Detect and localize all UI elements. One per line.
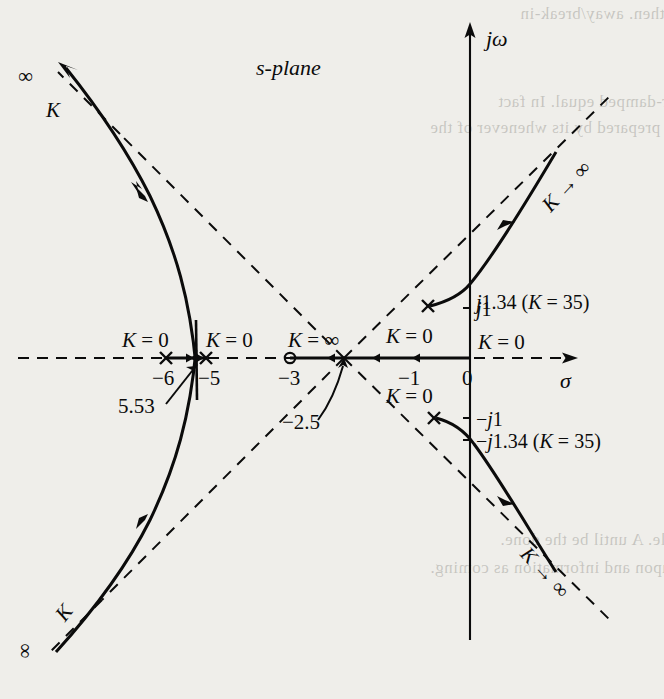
annotation-kinf-zero-minus3: K = ∞ — [288, 330, 339, 351]
plane-label: s-plane — [256, 57, 321, 79]
tick-label-j1: j1 — [476, 299, 492, 319]
real-axis-label: σ — [560, 370, 571, 392]
tick-label-minus-6: −6 — [152, 368, 174, 389]
tick-label-minus-j1-34: −j1.34 (K = 35) — [476, 431, 601, 451]
tick-label-zero: 0 — [462, 368, 473, 389]
infinity-label-lower-left: ∞ — [14, 644, 35, 659]
tick-label-minus-5: −5 — [198, 368, 220, 389]
annotation-k0-pole-minus5: K = 0 — [206, 330, 253, 351]
asymptote-centroid-label: −2.5 — [282, 412, 320, 433]
annotation-k0-pole-lower: K = 0 — [386, 386, 433, 407]
annotation-k0-pole-minus6: K = 0 — [122, 330, 169, 351]
tick-label-minus-3: −3 — [278, 368, 300, 389]
locus-branch-upper-left — [58, 62, 196, 366]
annotation-k0-pole-upper: K = 0 — [386, 326, 433, 347]
infinity-label-upper-left: ∞ — [18, 66, 33, 87]
locus-branch-upper-right — [430, 152, 556, 306]
imaginary-axis — [465, 22, 476, 640]
centroid-leader-line — [318, 358, 348, 420]
tick-label-j1-34: j1.34 (K = 35) — [476, 292, 590, 312]
k-label-upper-left: K — [46, 100, 60, 121]
imag-axis-label: jω — [486, 28, 508, 50]
breakaway-connector — [196, 320, 197, 400]
annotation-k0-origin: K = 0 — [478, 332, 525, 353]
tick-label-minus-j1: −j1 — [476, 409, 503, 429]
scanned-page-background: ng need drives behind. then. away/break-… — [0, 0, 664, 699]
breakaway-value-label: 5.53 — [118, 396, 155, 417]
